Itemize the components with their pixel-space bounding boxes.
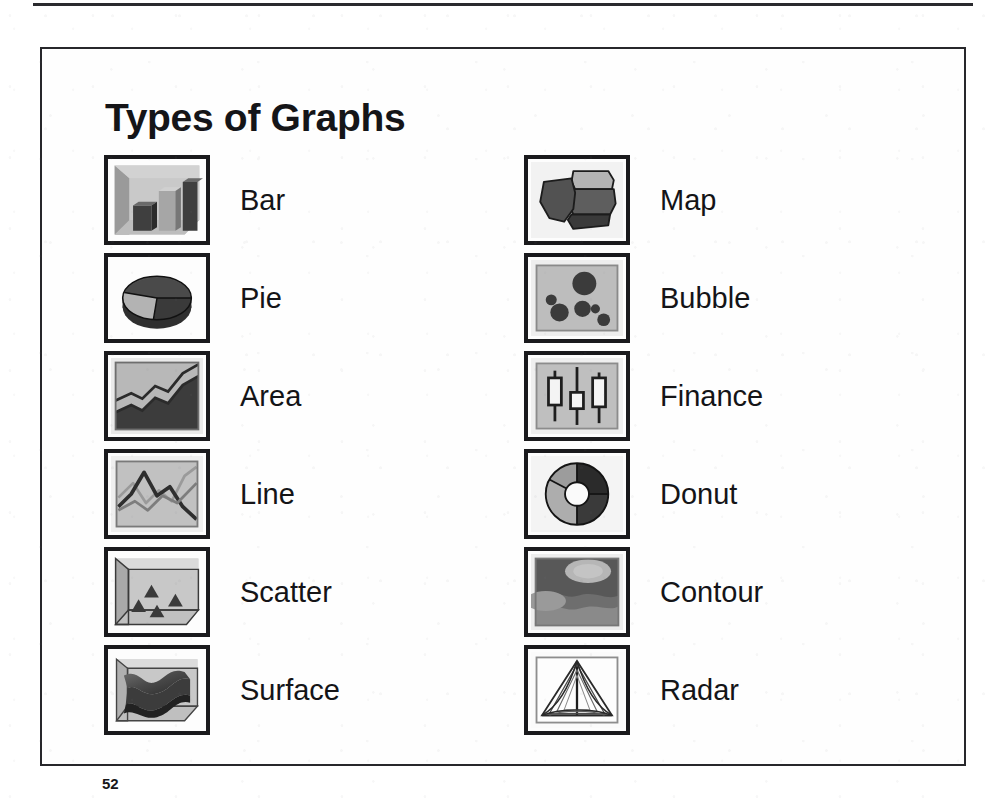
- scatter-chart-icon: [104, 547, 210, 637]
- list-item[interactable]: Finance: [524, 351, 924, 441]
- list-item[interactable]: Contour: [524, 547, 924, 637]
- bar-chart-icon: [104, 155, 210, 245]
- list-item[interactable]: Pie: [104, 253, 504, 343]
- list-item[interactable]: Donut: [524, 449, 924, 539]
- finance-chart-icon: [524, 351, 630, 441]
- list-item-label: Contour: [660, 547, 763, 637]
- map-chart-icon: [524, 155, 630, 245]
- donut-chart-icon: [524, 449, 630, 539]
- header-rule: [33, 3, 973, 6]
- list-item-label: Area: [240, 351, 301, 441]
- list-item-label: Finance: [660, 351, 763, 441]
- slide-frame: Types of Graphs: [40, 47, 966, 766]
- list-item-label: Donut: [660, 449, 737, 539]
- page-title: Types of Graphs: [105, 96, 405, 140]
- bubble-chart-icon: [524, 253, 630, 343]
- area-chart-icon: [104, 351, 210, 441]
- surface-chart-icon: [104, 645, 210, 735]
- list-item-label: Bar: [240, 155, 285, 245]
- line-chart-icon: [104, 449, 210, 539]
- list-item[interactable]: Bubble: [524, 253, 924, 343]
- left-column: Bar: [104, 155, 504, 743]
- list-item-label: Pie: [240, 253, 282, 343]
- list-item-label: Bubble: [660, 253, 750, 343]
- list-item[interactable]: Scatter: [104, 547, 504, 637]
- list-item-label: Scatter: [240, 547, 332, 637]
- list-item-label: Radar: [660, 645, 739, 735]
- list-item[interactable]: Bar: [104, 155, 504, 245]
- list-item[interactable]: Area: [104, 351, 504, 441]
- list-item[interactable]: Surface: [104, 645, 504, 735]
- list-item[interactable]: Map: [524, 155, 924, 245]
- page-number: 52: [102, 775, 119, 792]
- list-item[interactable]: Radar: [524, 645, 924, 735]
- list-item-label: Line: [240, 449, 295, 539]
- pie-chart-icon: [104, 253, 210, 343]
- list-item[interactable]: Line: [104, 449, 504, 539]
- radar-chart-icon: [524, 645, 630, 735]
- contour-chart-icon: [524, 547, 630, 637]
- list-item-label: Map: [660, 155, 716, 245]
- right-column: Map Bubble: [524, 155, 924, 743]
- list-item-label: Surface: [240, 645, 340, 735]
